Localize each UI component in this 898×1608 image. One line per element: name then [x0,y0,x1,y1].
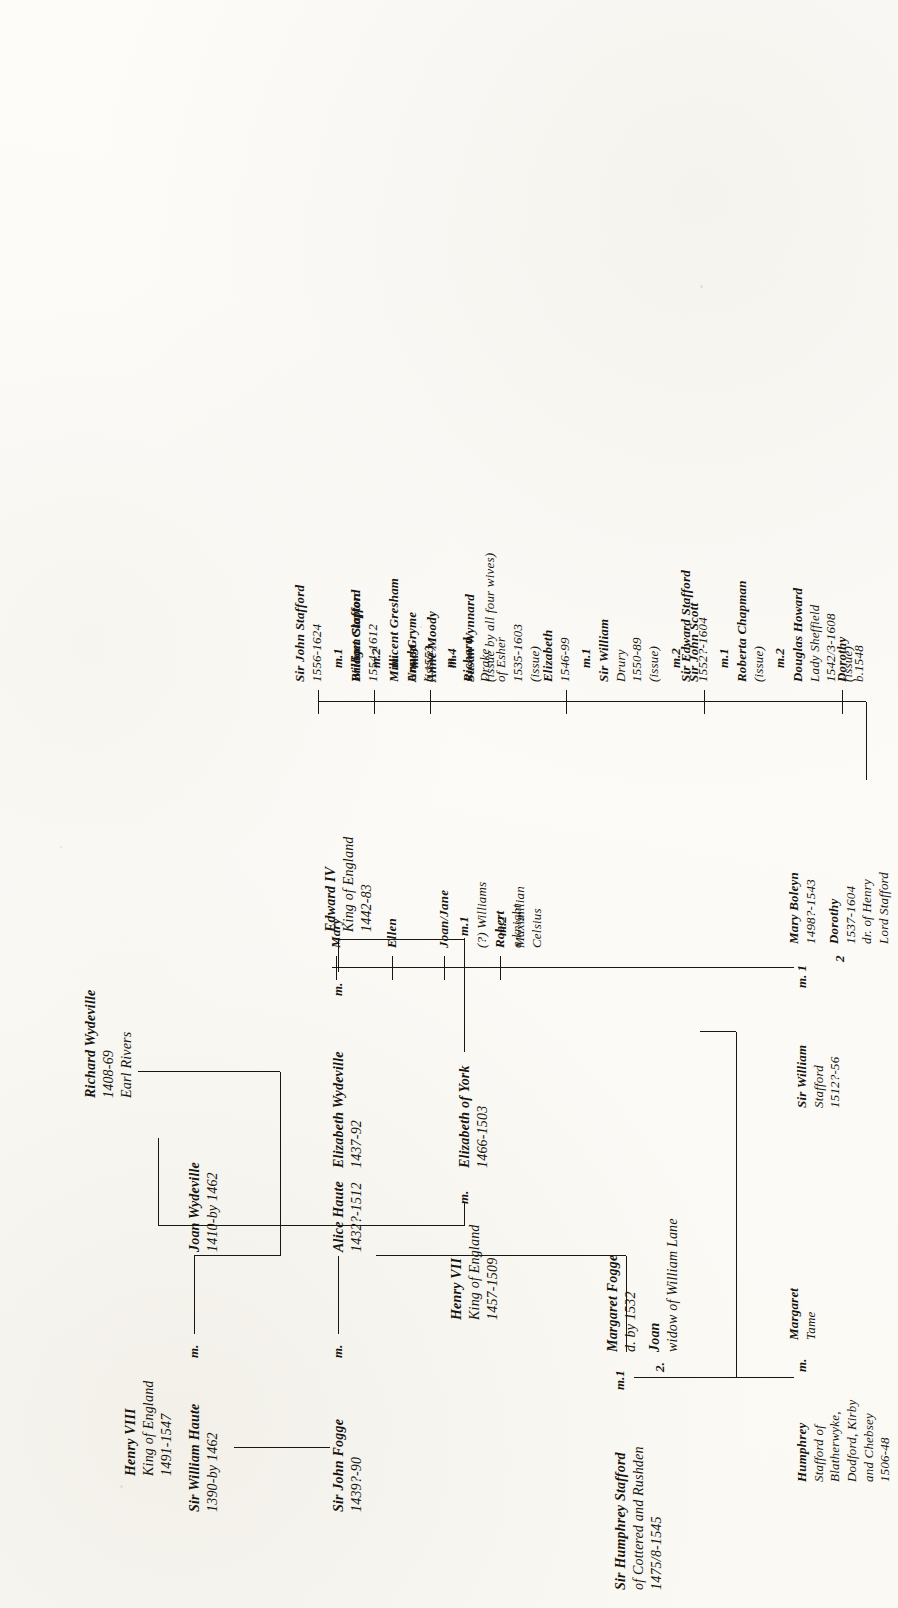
node-elizabeth-wydeville: Elizabeth Wydeville 1437-92 [330,1051,366,1168]
paper-texture [0,0,898,1608]
node-joan-jane-husband-2: Maximilian Celsius [512,886,545,948]
marker-elizabeth-m2: m.2 [668,648,684,668]
rule-tick-mary [336,956,337,980]
rule-child-sir-william-stafford [700,1031,736,1032]
rule-tick-joanjane [444,956,445,980]
node-sir-john-stafford: Sir John Stafford 1556-1624 [292,585,325,682]
node-joan-wydeville: Joan Wydeville 1410-by 1462 [186,1162,222,1252]
node-margaret-fogge: Margaret Fogge d. by 1532 [604,1255,640,1352]
rule-tick-ursula [430,690,431,714]
marker-fogge-alice: m. [330,1345,346,1358]
rule-wydeville-sibling-drop [194,1255,280,1256]
marker-humphrey-m1: m.1 [612,1370,628,1390]
node-joan-jane: Joan/Jane [436,890,453,948]
rule-elizyork-in [464,938,465,1052]
marker-edward-m2: m.2 [772,648,788,668]
rule-wydeville-sibling-bar [280,1072,281,1256]
rule-haute-to-children [234,1447,330,1448]
node-dorothy-stafford: Dorothy 1537-1604 dr. of Henry Lord Staf… [826,872,893,944]
node-margaret-tame: Margaret Tame [786,1288,819,1340]
rule-to-henryviii [158,1138,159,1226]
rule-tick-ellen [392,956,393,980]
rule-tick-dorothy-b1548 [842,690,843,714]
paper-speck [60,846,62,848]
marker-william-mary: m. 1 [794,965,810,988]
rule-tick-elizabeth-1546 [566,690,567,714]
rule-alice-to-margaret [376,1255,626,1256]
node-susan-wynnard: Susan Wynnard [462,594,479,682]
node-ellen: Ellen [384,918,401,948]
rule-dorothy-children-spine [318,701,866,702]
marker-wydeville-edward: m. [330,983,346,996]
node-sir-william-stafford: Sir William Stafford 1512?-56 [794,1045,844,1108]
node-bridget-clopton: Bridget Clopton [348,593,365,682]
node-sir-john-scott: Sir John Scott [686,603,703,682]
marker-haute-joan: m. [186,1345,202,1358]
marker-elizabeth-m1: m.1 [578,648,594,668]
node-henry-viii: Henry VIII King of England 1491-1547 [122,1380,176,1476]
rule-henryvii-union-bar [464,1202,465,1226]
rule-haute-joan [194,1256,195,1334]
rule-sibling-spine [332,967,502,968]
node-issue-by-all-four-wives: (issue by all four wives) [482,553,499,682]
rule-mary-children-drop [700,967,794,968]
node-millicent-gresham: Millicent Gresham [386,578,403,682]
rule-humphrey-children-drop [634,1377,736,1378]
node-richard-wydeville: Richard Wydeville 1408-69 Earl Rivers [82,989,136,1098]
node-elizabeth-1546: Elizabeth 1546-99 [540,630,573,682]
node-mary-boleyn: Mary Boleyn 1498?-1543 [786,872,819,944]
marker-joanjane-m1: m.1 [456,916,472,936]
rule-to-richard-wydeville [138,1071,280,1072]
node-sir-william-drury: Sir William Drury 1550-89 (issue) [596,619,663,682]
marker-humphrey-m2: 2. [652,1362,668,1372]
node-roberta-chapman: Roberta Chapman (issue) [734,580,767,682]
rule-child-humphrey-blatherwyke [736,1377,794,1378]
node-alice-haute: Alice Haute 1432?-1512 [330,1181,366,1252]
marker-john-m2: m.2 [368,648,384,668]
rule-henryvii-union-drop [158,1225,464,1226]
marker-humphrey-tame: m. [794,1359,810,1372]
rule-fogge-alice [338,1256,339,1334]
node-anne-moody: Anne Moody [424,611,441,682]
node-douglas-howard: Douglas Howard Lady Sheffield 1542/3-160… [790,588,857,682]
rule-tick-sir-john [318,690,319,714]
rule-tick-sir-edward [704,690,705,714]
marker-john-m4: m.4 [444,648,460,668]
rule-humphrey-children-bar [736,1032,737,1378]
paper-speck [700,285,703,288]
node-humphrey-stafford-blatherwyke: Humphrey Stafford of Blatherwyke, Dodfor… [794,1400,894,1483]
rule-dorothy-children-lead [866,702,867,780]
marker-edward-m1: m.1 [716,648,732,668]
node-mary: Mary [328,918,345,948]
node-sir-humphrey-stafford: Sir Humphrey Stafford of Cottered and Ru… [612,1446,666,1590]
node-joan-jane-husband-1: (?) Williams [474,882,491,948]
marker-joanjane-m2: m.2 [494,916,510,936]
marker-john-m3: m.3 [406,648,422,668]
node-sir-william-haute: Sir William Haute 1390-by 1462 [186,1404,222,1512]
rule-boleyn-children-stem [500,967,700,968]
genealogy-chart: Sir William Haute 1390-by 1462 m. Joan W… [0,0,898,1608]
paper-speck [120,1485,123,1488]
marker-william-dorothy: 2 [832,956,848,963]
chart-frame: Sir William Haute 1390-by 1462 m. Joan W… [0,0,898,1608]
rule-tick-william-1554 [374,690,375,714]
node-sir-john-fogge: Sir John Fogge 1439?-90 [330,1419,366,1512]
node-joan-widow-of-william-lane: Joan widow of William Lane [646,1218,682,1352]
marker-john-m1: m.1 [330,648,346,668]
node-henry-vii: Henry VII King of England 1457-1509 [448,1224,502,1320]
rule-tick-robert [500,956,501,980]
node-elizabeth-of-york: Elizabeth of York 1466-1503 [456,1065,492,1168]
